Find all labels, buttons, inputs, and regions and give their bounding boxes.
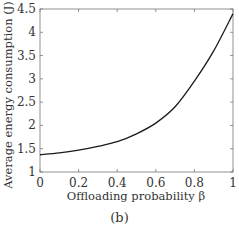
y-tick-label: 1.5 — [17, 142, 36, 156]
plot-area — [40, 9, 233, 172]
line-chart: 00.20.40.60.8111.522.533.544.5 Offloadin… — [0, 0, 239, 210]
figure-caption: (b) — [0, 210, 239, 225]
x-tick-label: 0.2 — [69, 176, 88, 190]
y-tick-label: 2 — [28, 118, 36, 132]
plot-border — [40, 9, 233, 172]
y-tick-label: 4.5 — [17, 2, 36, 16]
x-axis-label: Offloading probability β — [67, 189, 206, 203]
x-tick-label: 1 — [229, 176, 237, 190]
series-line — [40, 14, 233, 155]
x-tick-label: 0.8 — [185, 176, 204, 190]
axis-ticks: 00.20.40.60.8111.522.533.544.5 — [17, 2, 237, 190]
y-tick-label: 4 — [28, 25, 36, 39]
y-tick-label: 3.5 — [17, 49, 36, 63]
y-axis-label: Average energy consumption (J) — [1, 1, 15, 190]
data-series — [40, 14, 233, 155]
y-tick-label: 2.5 — [17, 95, 36, 109]
x-tick-label: 0 — [36, 176, 44, 190]
x-tick-label: 0.4 — [108, 176, 127, 190]
y-tick-label: 3 — [28, 72, 36, 86]
x-tick-label: 0.6 — [146, 176, 165, 190]
y-tick-label: 1 — [28, 165, 36, 179]
